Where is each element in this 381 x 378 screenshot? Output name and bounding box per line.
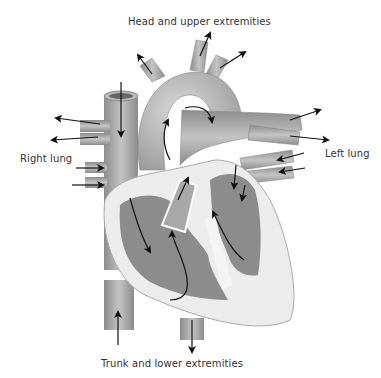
label-left-lung: Left lung bbox=[325, 148, 370, 159]
label-head-upper-extremities: Head and upper extremities bbox=[128, 16, 271, 27]
label-trunk-lower-extremities: Trunk and lower extremities bbox=[101, 358, 243, 369]
inferior-vena-cava bbox=[104, 280, 134, 330]
label-right-lung: Right lung bbox=[20, 153, 72, 164]
heart-diagram bbox=[0, 0, 381, 378]
